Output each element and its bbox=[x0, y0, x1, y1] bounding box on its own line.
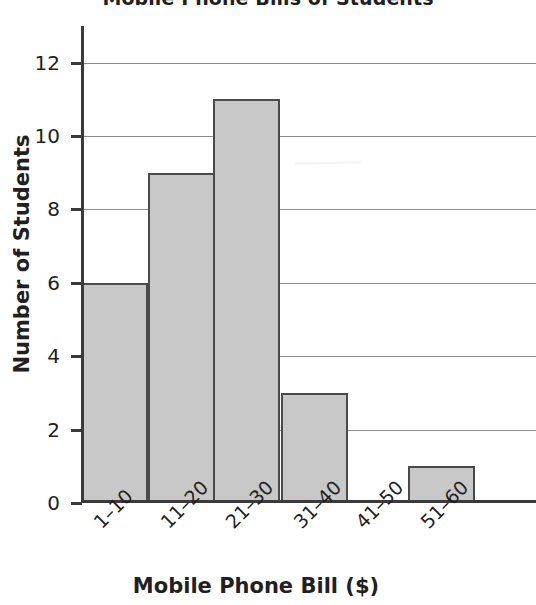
x-axis-title: Mobile Phone Bill ($) bbox=[0, 574, 512, 598]
y-axis-tick-label: 2 bbox=[47, 420, 60, 440]
y-axis-tickmark bbox=[71, 282, 82, 285]
x-axis-tick-labels: 1–1011–2021–3031–4041–5051–60 bbox=[81, 503, 536, 573]
gridline bbox=[81, 136, 536, 137]
y-axis-tick-label: 0 bbox=[47, 493, 60, 513]
chart-title: Mobile Phone Bills of Students bbox=[0, 0, 536, 9]
gridline bbox=[81, 63, 536, 64]
bar bbox=[148, 173, 215, 503]
bar bbox=[81, 283, 148, 503]
y-axis-tick-label: 10 bbox=[35, 126, 60, 146]
plot-area bbox=[81, 26, 536, 503]
y-axis-tickmark bbox=[71, 208, 82, 211]
y-axis-title: Number of Students bbox=[10, 114, 34, 394]
y-axis-tickmark bbox=[71, 135, 82, 138]
histogram-figure: Mobile Phone Bills of Students 024681012… bbox=[0, 0, 536, 605]
y-axis-tick-label: 12 bbox=[35, 53, 60, 73]
y-axis-tickmark bbox=[71, 355, 82, 358]
scan-artifact bbox=[295, 161, 361, 164]
y-axis-tick-label: 8 bbox=[47, 199, 60, 219]
y-axis-tickmark bbox=[71, 429, 82, 432]
y-axis-tickmark bbox=[71, 62, 82, 65]
y-axis-tick-label: 4 bbox=[47, 346, 60, 366]
y-axis-tick-label: 6 bbox=[47, 273, 60, 293]
bar bbox=[213, 99, 280, 503]
